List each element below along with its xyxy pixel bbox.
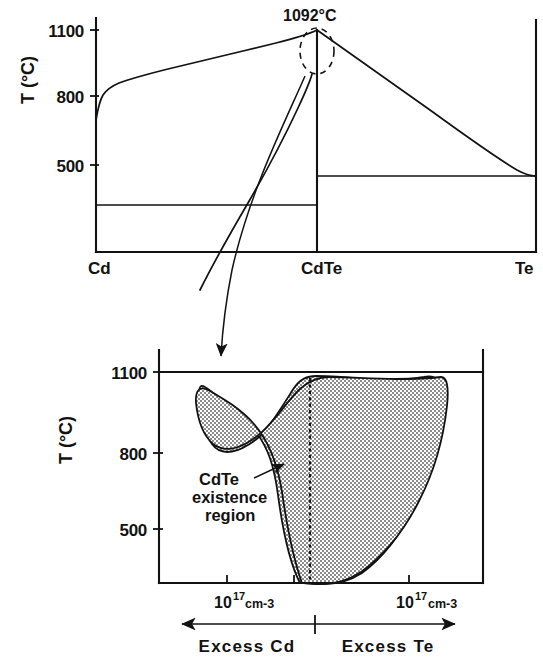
bottom-ytick-label-1100: 1100 <box>111 364 147 383</box>
phase-diagram-canvas: 1092°C 1100 800 500 T (°C) Cd CdTe Te <box>0 0 543 660</box>
top-xlabel-cdte: CdTe <box>301 259 342 278</box>
bottom-ytick-label-800: 800 <box>120 445 147 464</box>
top-y-axis-title: T (°C) <box>18 56 38 104</box>
bottom-xtick-label-right: 10 17 cm-3 <box>396 590 457 611</box>
top-xlabel-te: Te <box>515 259 534 278</box>
excess-cd-label: Excess Cd <box>199 637 296 656</box>
melting-point-label: 1092°C <box>283 7 337 24</box>
figure-root: 1092°C 1100 800 500 T (°C) Cd CdTe Te <box>0 0 543 660</box>
bottom-y-axis-title: T (°C) <box>56 416 76 464</box>
top-curve-cd-liquidus <box>96 30 317 120</box>
top-curve-cd-solidus <box>200 74 312 290</box>
top-curve-te-liquidus <box>317 30 536 176</box>
excess-te-label: Excess Te <box>342 637 435 656</box>
bottom-xtick-label-left: 10 17 cm-3 <box>214 590 274 611</box>
right-expo-unit: cm-3 <box>428 597 457 611</box>
bottom-ytick-label-500: 500 <box>120 521 147 540</box>
right-expo-exponent: 17 <box>415 590 427 602</box>
region-label-line-1: CdTe <box>199 470 239 488</box>
top-xlabel-cd: Cd <box>88 259 111 278</box>
top-ytick-label-500: 500 <box>57 157 84 176</box>
left-expo-base: 10 <box>214 594 232 611</box>
bottom-panel: 1100 800 500 T (°C) CdTe existence regio… <box>56 350 483 656</box>
region-label-line-3: region <box>205 506 255 524</box>
top-ytick-label-800: 800 <box>57 88 84 107</box>
region-label-line-2: existence <box>192 488 267 506</box>
left-expo-exponent: 17 <box>233 590 245 602</box>
right-expo-base: 10 <box>396 594 414 611</box>
left-expo-unit: cm-3 <box>245 597 274 611</box>
top-ytick-label-1100: 1100 <box>48 22 84 41</box>
top-panel: 1092°C 1100 800 500 T (°C) Cd CdTe Te <box>18 7 536 356</box>
